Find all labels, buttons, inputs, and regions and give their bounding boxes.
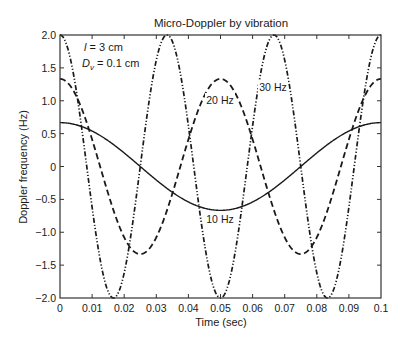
- y-tick-label: 1.5: [41, 62, 56, 74]
- plot-frame: [60, 35, 381, 298]
- x-tick-label: 0.08: [307, 302, 328, 314]
- parameter-annotation: l = 3 cm Dv = 0.1 cm: [82, 41, 140, 72]
- series-30hz-line: [60, 35, 381, 298]
- series-label-10hz: 10 Hz: [206, 213, 233, 225]
- x-tick-label: 0.05: [210, 302, 231, 314]
- length-annotation: l = 3 cm: [84, 41, 123, 53]
- y-tick-label: 0: [50, 161, 56, 173]
- chart-title: Micro-Doppler by vibration: [154, 17, 288, 29]
- x-tick-label: 0.06: [242, 302, 263, 314]
- x-tick-label: 0.1: [374, 302, 389, 314]
- x-tick-label: 0: [57, 302, 63, 314]
- y-tick-label: −2.0: [35, 292, 56, 304]
- x-tick-label: 0.04: [178, 302, 199, 314]
- displacement-annotation: Dv = 0.1 cm: [82, 57, 140, 72]
- chart: Micro-Doppler by vibration 00.010.020.03…: [0, 0, 402, 346]
- x-tick-label: 0.01: [82, 302, 103, 314]
- series-10hz-line: [60, 123, 381, 211]
- plot-curves: [60, 35, 381, 298]
- x-tick-label: 0.07: [274, 302, 295, 314]
- y-axis-label: Doppler frequency (Hz): [17, 110, 29, 224]
- x-tick-label: 0.03: [146, 302, 167, 314]
- x-tick-label: 0.09: [339, 302, 360, 314]
- y-tick-label: −0.5: [35, 193, 56, 205]
- series-label-20hz: 20 Hz: [206, 94, 233, 106]
- series-label-30hz: 30 Hz: [259, 81, 286, 93]
- y-tick-label: −1.0: [35, 226, 56, 238]
- y-tick-label: 0.5: [41, 128, 56, 140]
- x-tick-label: 0.02: [114, 302, 135, 314]
- y-tick-label: −1.5: [35, 259, 56, 271]
- x-axis-label: Time (sec): [195, 316, 247, 328]
- y-tick-label: 1.0: [41, 95, 56, 107]
- y-tick-label: 2.0: [41, 29, 56, 41]
